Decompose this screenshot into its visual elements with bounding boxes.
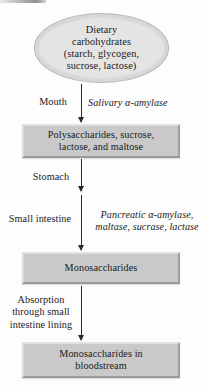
- label-enzyme-pancreatic-line-2: maltase, sucrase, lactase: [88, 221, 206, 233]
- arrow-mouth: [81, 84, 82, 122]
- ellipse-line-4: sucrose, lactose): [64, 60, 139, 72]
- node-polysaccharides-line-1: Polysaccharides, sucrose,: [48, 129, 154, 141]
- ellipse-line-3: (starch, glycogen,: [64, 48, 139, 60]
- arrow-absorption: [81, 286, 82, 340]
- scan-artifact: [0, 0, 46, 3]
- label-organ-stomach: Stomach: [26, 171, 76, 183]
- node-polysaccharides: Polysaccharides, sucrose, lactose, and m…: [22, 124, 180, 158]
- label-enzyme-salivary-line-1: Salivary α-amylase: [88, 97, 198, 109]
- node-polysaccharides-label: Polysaccharides, sucrose, lactose, and m…: [48, 129, 154, 153]
- arrow-stomach: [81, 159, 82, 191]
- node-monosaccharides-line-1: Monosaccharides: [65, 262, 138, 274]
- node-polysaccharides-line-2: lactose, and maltose: [48, 141, 154, 153]
- label-organ-stomach-line-1: Stomach: [26, 171, 76, 183]
- label-enzyme-pancreatic-line-1: Pancreatic α-amylase,: [88, 209, 206, 221]
- label-enzyme-salivary: Salivary α-amylase: [88, 97, 198, 109]
- label-enzyme-pancreatic: Pancreatic α-amylase, maltase, sucrase, …: [88, 209, 206, 233]
- node-dietary-carbohydrates: Dietary carbohydrates (starch, glycogen,…: [34, 13, 169, 83]
- node-monosaccharides-bloodstream-label: Monosaccharides in bloodstream: [59, 348, 143, 372]
- node-monosaccharides-label: Monosaccharides: [65, 262, 138, 274]
- node-monosaccharides-bloodstream-line-1: Monosaccharides in: [59, 348, 143, 360]
- node-monosaccharides-bloodstream-line-2: bloodstream: [59, 360, 143, 372]
- label-organ-small-intestine-line-1: Small intestine: [4, 213, 76, 225]
- ellipse-line-2: carbohydrates: [64, 36, 139, 48]
- label-organ-small-intestine: Small intestine: [4, 213, 76, 225]
- node-monosaccharides-bloodstream: Monosaccharides in bloodstream: [22, 342, 180, 378]
- node-monosaccharides: Monosaccharides: [22, 252, 180, 284]
- label-process-absorption-line-2: through small: [4, 306, 78, 318]
- ellipse-line-1: Dietary: [64, 24, 139, 36]
- arrow-small-intestine: [81, 195, 82, 250]
- label-process-absorption-line-3: intestine lining: [4, 319, 78, 331]
- label-organ-mouth: Mouth: [30, 96, 76, 108]
- node-dietary-carbohydrates-label: Dietary carbohydrates (starch, glycogen,…: [58, 24, 145, 72]
- carbohydrate-digestion-flowchart: Dietary carbohydrates (starch, glycogen,…: [0, 0, 208, 386]
- label-organ-mouth-line-1: Mouth: [30, 96, 76, 108]
- label-process-absorption-line-1: Absorption: [4, 294, 78, 306]
- label-process-absorption: Absorption through small intestine linin…: [4, 294, 78, 331]
